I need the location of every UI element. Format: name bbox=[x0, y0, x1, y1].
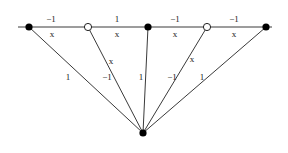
spoke-label-4-weight: −1 bbox=[167, 72, 177, 82]
node-filled-3 bbox=[144, 23, 151, 30]
node-open-2 bbox=[84, 23, 91, 30]
node-open-4 bbox=[203, 23, 210, 30]
spoke-label-4-x: x bbox=[190, 54, 195, 64]
spoke-label-2-weight: −1 bbox=[102, 72, 112, 82]
edge-label-h2-bottom: x bbox=[115, 29, 120, 39]
spoke-label-5: 1 bbox=[200, 72, 205, 82]
edge-label-h1-bottom: x bbox=[50, 29, 55, 39]
edge-label-h4-bottom: x bbox=[232, 29, 237, 39]
spoke-edge-1 bbox=[29, 27, 143, 133]
spoke-label-2-x: x bbox=[109, 56, 114, 66]
spoke-label-3: 1 bbox=[139, 72, 144, 82]
spoke-edge-3 bbox=[143, 27, 148, 133]
node-filled-5 bbox=[262, 23, 269, 30]
node-filled-1 bbox=[25, 23, 32, 30]
node-bottom-hub bbox=[139, 129, 146, 136]
edge-label-h4-top: −1 bbox=[229, 14, 239, 24]
spoke-label-1: 1 bbox=[66, 72, 71, 82]
spoke-edge-2 bbox=[88, 27, 143, 133]
graph-diagram: −1 x 1 x −1 x −1 x 1 x −1 1 x −1 1 bbox=[0, 0, 288, 153]
edge-label-h2-top: 1 bbox=[115, 14, 120, 24]
edge-label-h3-top: −1 bbox=[170, 14, 180, 24]
spoke-edge-5 bbox=[143, 27, 266, 133]
edge-label-h3-bottom: x bbox=[173, 29, 178, 39]
edge-label-h1-top: −1 bbox=[46, 14, 56, 24]
